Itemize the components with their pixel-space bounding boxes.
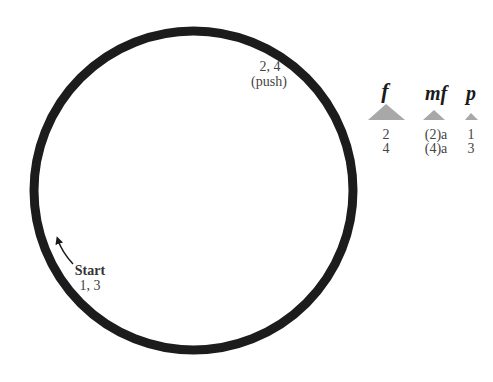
dynamic-f-row2: 4 <box>383 141 390 156</box>
direction-arrow-icon <box>58 240 73 264</box>
motion-ring <box>34 31 353 350</box>
dynamic-symbol-forte: f <box>381 78 391 103</box>
dynamic-column-f: f 2 4 <box>368 78 405 156</box>
dynamic-triangle-small-icon <box>465 113 478 120</box>
dynamic-triangle-large-icon <box>368 104 405 120</box>
dynamic-mf-row2: (4)a <box>425 141 448 157</box>
top-label-numbers: 2, 4 <box>260 59 281 74</box>
dynamic-symbol-mezzoforte: mf <box>425 82 450 105</box>
circle-diagram: 2, 4 (push) Start 1, 3 f 2 4 mf (2)a (4)… <box>0 0 493 382</box>
dynamic-column-p: p 1 3 <box>464 82 478 156</box>
start-label-numbers: 1, 3 <box>80 278 101 293</box>
start-label-title: Start <box>75 263 106 278</box>
dynamic-p-row1: 1 <box>468 127 475 142</box>
dynamic-column-mf: mf (2)a (4)a <box>423 82 449 157</box>
dynamic-symbol-piano: p <box>464 82 476 105</box>
dynamic-f-row1: 2 <box>383 127 390 142</box>
top-label-action: (push) <box>251 74 287 90</box>
dynamic-triangle-medium-icon <box>423 110 445 120</box>
dynamic-p-row2: 3 <box>468 141 475 156</box>
